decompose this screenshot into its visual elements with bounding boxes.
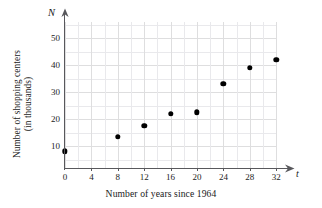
gridline-vertical (78, 22, 79, 168)
x-axis-tick-label: 28 (238, 172, 262, 182)
gridline-vertical (105, 22, 106, 168)
gridline-vertical (276, 22, 277, 168)
x-axis-tick-mark (197, 168, 198, 171)
data-point (115, 134, 120, 139)
x-axis-tick-labels: 048121620242832 (0, 172, 322, 186)
gridline-vertical (118, 22, 119, 168)
x-axis-tick-label: 4 (79, 172, 103, 182)
x-axis-tick-mark (91, 168, 92, 171)
y-axis-arrow-icon (60, 8, 70, 18)
x-axis-variable-label: t (296, 168, 299, 179)
data-point (141, 123, 146, 128)
x-axis-tick-label: 24 (211, 172, 235, 182)
x-axis-tick-mark (223, 168, 224, 171)
gridline-vertical (197, 22, 198, 168)
x-axis-tick-label: 8 (106, 172, 130, 182)
y-axis-title-line2: (in thousands) (23, 77, 34, 131)
x-axis-tick-mark (171, 168, 172, 171)
gridline-vertical (91, 22, 92, 168)
y-axis-line (64, 14, 65, 170)
plot-area (65, 22, 277, 168)
y-axis-title-line1: Number of shopping centers (12, 50, 23, 158)
gridline-vertical (184, 22, 185, 168)
gridline-vertical (250, 22, 251, 168)
gridline-vertical (263, 22, 264, 168)
gridline-vertical (157, 22, 158, 168)
data-point (221, 81, 226, 86)
data-point (273, 57, 278, 62)
x-axis-tick-label: 20 (185, 172, 209, 182)
x-axis-tick-mark (144, 168, 145, 171)
data-point (247, 65, 252, 70)
gridline-vertical (144, 22, 145, 168)
y-axis-tick-label: 20 (40, 114, 60, 124)
gridline-vertical (237, 22, 238, 168)
x-axis-line (64, 168, 288, 169)
x-axis-tick-label: 16 (159, 172, 183, 182)
y-axis-tick-label: 30 (40, 87, 60, 97)
gridline-vertical (223, 22, 224, 168)
y-axis-tick-label: 10 (40, 141, 60, 151)
x-axis-tick-mark (250, 168, 251, 171)
x-axis-tick-label: 0 (53, 172, 77, 182)
x-axis-title: Number of years since 1964 (0, 188, 322, 199)
y-axis-tick-label: 50 (40, 33, 60, 43)
x-axis-tick-mark (118, 168, 119, 171)
gridline-vertical (131, 22, 132, 168)
x-axis-tick-mark (276, 168, 277, 171)
gridline-vertical (171, 22, 172, 168)
gridline-vertical (210, 22, 211, 168)
x-axis-tick-label: 12 (132, 172, 156, 182)
data-point (194, 110, 199, 115)
scatter-plot-figure: Number of shopping centers (in thousands… (0, 0, 322, 208)
y-axis-tick-label: 40 (40, 60, 60, 70)
x-axis-tick-label: 32 (264, 172, 288, 182)
data-point (168, 111, 173, 116)
